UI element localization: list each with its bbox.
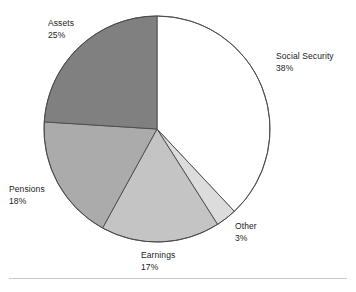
slice-label-value-other: 3% [235, 233, 257, 245]
slice-label-name-earnings: Earnings [141, 250, 175, 262]
pie-chart-svg [0, 0, 356, 292]
pie-slices-group [44, 16, 270, 242]
slice-label-name-assets: Assets [48, 18, 74, 30]
slice-label-value-pensions: 18% [9, 196, 45, 208]
slice-label-value-assets: 25% [48, 30, 74, 42]
slice-label-earnings: Earnings 17% [141, 250, 175, 273]
slice-label-name-pensions: Pensions [9, 184, 45, 196]
slice-label-social-security: Social Security 38% [276, 51, 334, 74]
slice-label-name-social-security: Social Security [276, 51, 334, 63]
slice-label-other: Other 3% [235, 221, 257, 244]
bottom-divider-rule [9, 278, 347, 279]
slice-label-name-other: Other [235, 221, 257, 233]
slice-label-value-earnings: 17% [141, 262, 175, 274]
pie-chart-figure: Social Security 38% Assets 25% Pensions … [0, 0, 356, 292]
slice-label-assets: Assets 25% [48, 18, 74, 41]
slice-label-value-social-security: 38% [276, 63, 334, 75]
slice-label-pensions: Pensions 18% [9, 184, 45, 207]
